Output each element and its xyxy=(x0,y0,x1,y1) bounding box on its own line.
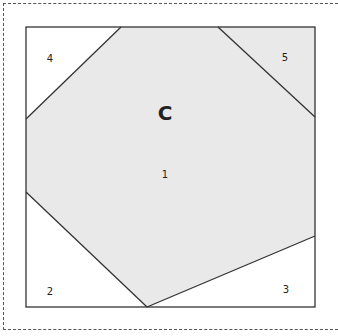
title-label: C xyxy=(158,101,173,125)
region-label-3: 3 xyxy=(283,284,289,295)
region-label-4: 4 xyxy=(47,53,53,64)
region-label-1: 1 xyxy=(162,169,168,180)
region-label-2: 2 xyxy=(47,286,53,297)
region-label-5: 5 xyxy=(282,52,288,63)
